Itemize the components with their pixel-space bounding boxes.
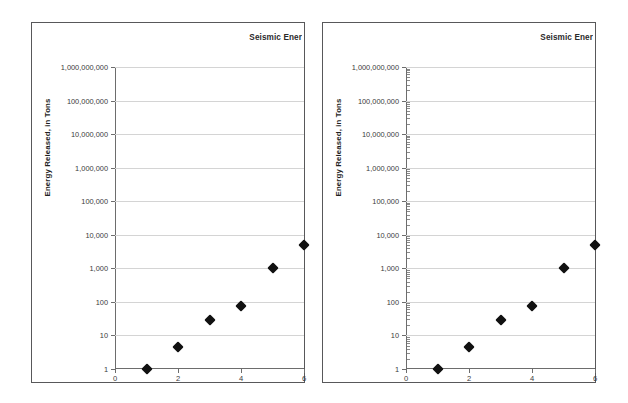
y-axis-minor-tick: [407, 315, 410, 316]
y-axis-title: Energy Released, in Tons: [43, 99, 52, 197]
x-axis-tick-label: 2: [467, 374, 471, 383]
y-axis-tick: [111, 235, 115, 236]
y-axis-minor-tick: [407, 209, 410, 210]
y-axis-tick-label: 100,000,000: [67, 96, 108, 105]
y-axis-tick-label: 10: [100, 331, 108, 340]
chart-panel-left-inner: Seismic Ener Energy Released, in Tons 11…: [32, 23, 304, 382]
y-axis-minor-tick: [407, 215, 410, 216]
y-axis-minor-tick: [407, 118, 410, 119]
y-axis-minor-tick: [407, 178, 410, 179]
y-axis-minor-tick: [407, 90, 410, 91]
y-axis-minor-tick: [407, 349, 410, 350]
y-gridline: [406, 168, 595, 169]
y-axis-minor-tick: [407, 353, 410, 354]
x-axis-tick-label: 4: [239, 374, 243, 383]
y-axis-title: Energy Released, in Tons: [334, 99, 343, 197]
y-axis-minor-tick: [407, 114, 410, 115]
y-axis-minor-tick: [407, 72, 410, 73]
data-point-marker: [589, 239, 600, 250]
y-gridline: [406, 302, 595, 303]
y-axis-minor-tick: [407, 278, 410, 279]
y-axis-minor-tick: [407, 124, 410, 125]
y-axis-minor-tick: [407, 305, 410, 306]
y-axis-minor-tick: [407, 346, 410, 347]
y-axis-minor-tick: [407, 169, 410, 170]
y-gridline: [406, 101, 595, 102]
y-axis-minor-tick: [407, 158, 410, 159]
y-axis-minor-tick: [407, 206, 410, 207]
x-axis-tick-label: 2: [176, 374, 180, 383]
y-axis-tick: [402, 302, 406, 303]
data-point-marker: [558, 263, 569, 274]
y-axis-tick: [111, 302, 115, 303]
x-axis-tick: [115, 369, 116, 373]
x-axis-tick-label: 0: [113, 374, 117, 383]
y-axis-tick-label: 1,000,000: [75, 163, 108, 172]
y-axis-tick: [402, 67, 406, 68]
y-axis-minor-tick: [407, 359, 410, 360]
y-gridline: [115, 335, 304, 336]
data-point-marker: [172, 341, 183, 352]
x-axis-tick: [304, 369, 305, 373]
y-axis-minor-tick: [407, 69, 410, 70]
y-axis-minor-tick: [407, 147, 410, 148]
y-axis-tick: [402, 201, 406, 202]
y-axis-minor-tick: [407, 270, 410, 271]
y-axis-minor-tick: [407, 258, 410, 259]
y-axis-line: [115, 67, 116, 369]
y-gridline: [406, 235, 595, 236]
data-point-marker: [141, 363, 152, 374]
data-point-marker: [204, 315, 215, 326]
x-axis-tick: [241, 369, 242, 373]
x-axis-tick: [406, 369, 407, 373]
y-axis-minor-tick: [407, 104, 410, 105]
y-axis-minor-tick: [407, 276, 410, 277]
y-axis-minor-tick: [407, 274, 410, 275]
y-axis-minor-tick: [407, 171, 410, 172]
y-axis-minor-tick: [407, 238, 410, 239]
y-gridline: [115, 302, 304, 303]
chart-panel-left: Seismic Ener Energy Released, in Tons 11…: [31, 22, 305, 383]
y-gridline: [115, 201, 304, 202]
y-gridline: [406, 67, 595, 68]
y-axis-minor-tick: [407, 339, 410, 340]
y-axis-minor-tick: [407, 236, 410, 237]
x-axis-tick-label: 4: [530, 374, 534, 383]
y-axis-minor-tick: [407, 108, 410, 109]
y-axis-minor-tick: [407, 343, 410, 344]
y-axis-tick-label: 100,000: [81, 197, 108, 206]
y-axis-minor-tick: [407, 307, 410, 308]
x-axis-tick: [595, 369, 596, 373]
y-axis-minor-tick: [407, 181, 410, 182]
y-axis-minor-tick: [407, 136, 410, 137]
y-axis-minor-tick: [407, 74, 410, 75]
y-axis-tick: [111, 168, 115, 169]
y-axis-minor-tick: [407, 272, 410, 273]
y-axis-minor-tick: [407, 303, 410, 304]
y-axis-tick-label: 1,000: [381, 264, 400, 273]
y-axis-tick-label: 10,000: [85, 230, 108, 239]
y-axis-tick-label: 10,000,000: [362, 130, 399, 139]
screenshot-canvas: Seismic Ener Energy Released, in Tons 11…: [0, 0, 628, 403]
x-axis-tick: [469, 369, 470, 373]
y-axis-minor-tick: [407, 191, 410, 192]
y-axis-minor-tick: [407, 85, 410, 86]
y-axis-tick: [402, 235, 406, 236]
data-point-marker: [463, 341, 474, 352]
y-axis-tick: [402, 268, 406, 269]
y-axis-tick-label: 10,000,000: [71, 130, 108, 139]
y-axis-minor-tick: [407, 144, 410, 145]
y-axis-tick: [111, 67, 115, 68]
y-axis-tick: [111, 101, 115, 102]
y-axis-minor-tick: [407, 225, 410, 226]
y-axis-minor-tick: [407, 70, 410, 71]
y-axis-tick-label: 10: [391, 331, 399, 340]
y-axis-minor-tick: [407, 242, 410, 243]
y-gridline: [115, 168, 304, 169]
y-axis-tick-label: 100: [96, 297, 108, 306]
y-axis-tick: [402, 101, 406, 102]
y-gridline: [115, 134, 304, 135]
y-axis-tick-label: 100,000,000: [358, 96, 399, 105]
x-axis-tick-label: 6: [302, 374, 306, 383]
y-axis-tick-label: 1,000: [90, 264, 109, 273]
